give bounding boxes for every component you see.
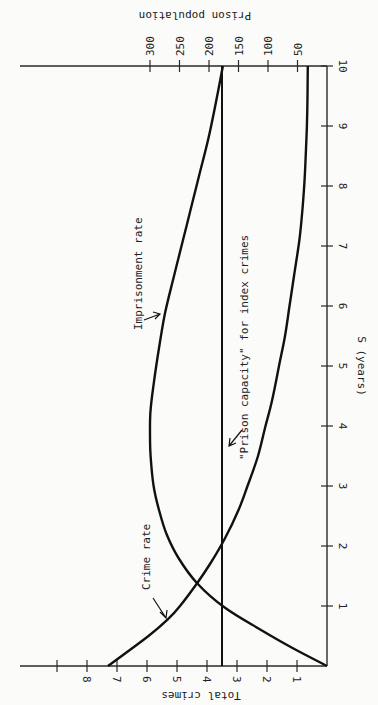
s-axis-label: S (years) bbox=[355, 336, 368, 396]
chart: 12345678910 12345678 50100150200250300 S… bbox=[0, 0, 378, 705]
s-tick-label: 10 bbox=[336, 59, 349, 72]
prison-population-tick-label: 50 bbox=[292, 43, 305, 56]
total-crimes-tick-label: 4 bbox=[200, 676, 213, 683]
s-tick-label: 7 bbox=[336, 243, 349, 250]
prison-population-tick-label: 300 bbox=[144, 36, 157, 56]
s-tick-label: 9 bbox=[336, 123, 349, 130]
s-tick-label: 8 bbox=[336, 183, 349, 190]
total-crimes-axis-ticks: 12345678 bbox=[57, 660, 303, 683]
s-tick-label: 6 bbox=[336, 303, 349, 310]
s-tick-label: 1 bbox=[336, 603, 349, 610]
prison-population-tick-label: 100 bbox=[262, 36, 275, 56]
total-crimes-axis-label: Total crimes bbox=[161, 689, 240, 702]
imprisonment-rate-arrow bbox=[144, 312, 160, 320]
prison-population-axis-label: Prison population bbox=[139, 9, 252, 22]
imprisonment-rate-annotation: Imprisonment rate bbox=[132, 217, 145, 330]
total-crimes-tick-label: 6 bbox=[140, 676, 153, 683]
prison-population-tick-label: 200 bbox=[203, 36, 216, 56]
prison-population-tick-label: 150 bbox=[233, 36, 246, 56]
crime-rate-arrow bbox=[153, 598, 167, 618]
prison-population-tick-label: 250 bbox=[174, 36, 187, 56]
crime-rate-line bbox=[108, 66, 308, 666]
s-tick-label: 4 bbox=[336, 423, 349, 430]
total-crimes-tick-label: 1 bbox=[290, 676, 303, 683]
s-tick-label: 3 bbox=[336, 483, 349, 490]
total-crimes-tick-label: 5 bbox=[170, 676, 183, 683]
s-tick-label: 2 bbox=[336, 543, 349, 550]
total-crimes-tick-label: 3 bbox=[230, 676, 243, 683]
crime-rate-annotation: Crime rate bbox=[140, 524, 153, 590]
prison-capacity-annotation: "Prison capacity" for index crimes bbox=[238, 235, 251, 460]
s-tick-label: 5 bbox=[336, 363, 349, 370]
total-crimes-tick-label: 7 bbox=[110, 676, 123, 683]
total-crimes-tick-label: 2 bbox=[260, 676, 273, 683]
s-axis-ticks: 12345678910 bbox=[321, 59, 349, 609]
total-crimes-tick-label: 8 bbox=[80, 676, 93, 683]
